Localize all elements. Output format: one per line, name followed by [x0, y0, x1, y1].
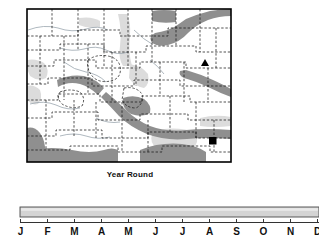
- colorado-range-map: [0, 0, 319, 190]
- month-label-may: M: [115, 226, 142, 237]
- month-label-dec: D: [304, 226, 319, 237]
- season-timeline-panel: J F M A M J J A S O N D: [0, 200, 319, 243]
- month-label-feb: F: [34, 226, 61, 237]
- month-label-apr: A: [88, 226, 115, 237]
- month-label-aug: A: [196, 226, 223, 237]
- month-label-oct: O: [250, 226, 277, 237]
- range-map-figure: Year Round: [0, 0, 319, 243]
- month-label-jul: J: [169, 226, 196, 237]
- month-label-jan: J: [7, 226, 34, 237]
- month-label-jun: J: [142, 226, 169, 237]
- month-label-mar: M: [61, 226, 88, 237]
- map-panel: Year Round: [0, 0, 319, 190]
- month-label-row: J F M A M J J A S O N D: [0, 226, 319, 243]
- bar-highlight: [21, 208, 318, 211]
- month-label-nov: N: [277, 226, 304, 237]
- map-caption: Year Round: [0, 170, 260, 179]
- month-label-sep: S: [223, 226, 250, 237]
- square-marker: [209, 137, 217, 145]
